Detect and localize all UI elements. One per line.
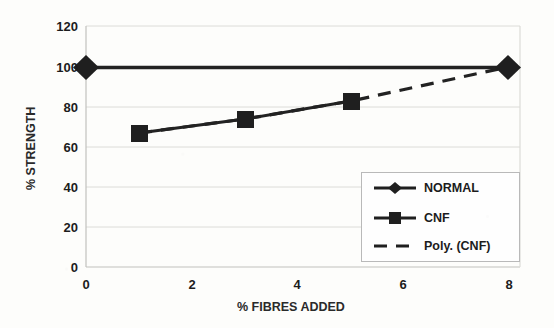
y-tick-0: 0 [40, 260, 78, 275]
legend-label-poly-cnf: Poly. (CNF) [424, 239, 490, 253]
poly-cnf-trendline [139, 67, 508, 133]
cnf-marker-1 [131, 125, 148, 142]
y-tick-60: 60 [40, 140, 78, 155]
legend-label-cnf: CNF [424, 211, 450, 225]
legend: NORMAL CNF Poly. (CNF) [361, 172, 520, 262]
normal-marker-2 [495, 55, 521, 80]
y-tick-120: 120 [40, 19, 78, 34]
legend-swatch-normal [372, 181, 418, 195]
y-axis-title: % STRENGTH [24, 107, 38, 190]
cnf-marker-3 [343, 93, 360, 110]
cnf-marker-2 [237, 111, 254, 128]
y-tick-40: 40 [40, 180, 78, 195]
x-tick-6: 6 [383, 277, 423, 292]
chart-figure: 120 100 80 60 40 20 0 0 2 4 6 8 % STRENG… [0, 0, 554, 328]
x-tick-2: 2 [172, 277, 212, 292]
y-tick-80: 80 [40, 100, 78, 115]
x-axis-title: % FIBRES ADDED [237, 300, 345, 314]
series-cnf [131, 93, 360, 142]
legend-swatch-cnf [372, 211, 418, 225]
square-marker-icon [389, 212, 401, 224]
series-poly-cnf [139, 67, 508, 133]
legend-swatch-poly-cnf [372, 239, 418, 253]
legend-item-normal: NORMAL [372, 181, 479, 195]
x-tick-4: 4 [277, 277, 317, 292]
legend-item-poly-cnf: Poly. (CNF) [372, 239, 490, 253]
diamond-marker-icon [388, 182, 402, 194]
y-tick-20: 20 [40, 220, 78, 235]
legend-item-cnf: CNF [372, 211, 450, 225]
legend-label-normal: NORMAL [424, 181, 479, 195]
x-tick-8: 8 [489, 277, 529, 292]
series-normal [73, 55, 521, 80]
x-tick-0: 0 [66, 277, 106, 292]
y-tick-100: 100 [40, 60, 78, 75]
